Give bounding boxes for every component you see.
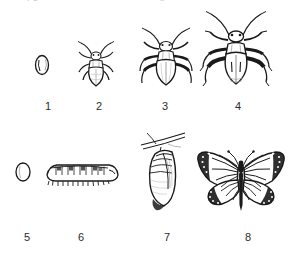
stage-8-figure-monarch-butterfly-adult-icon [198,150,284,211]
stage-1-figure-insect-egg-oval-icon [36,56,49,75]
stage-label-3: 3 [155,100,175,112]
metamorphosis-figure [0,0,307,261]
stage-label-5: 5 [17,231,37,243]
stage-4-figure-insect-adult-bug-icon [200,12,272,87]
stage-7-figure-chrysalis-pupa-icon [141,133,185,210]
stage-label-8: 8 [238,231,258,243]
stage-label-1: 1 [38,100,58,112]
stage-label-6: 6 [71,231,91,243]
stage-label-7: 7 [157,231,177,243]
stage-2-figure-insect-nymph-small-icon [78,42,114,87]
stage-6-figure-caterpillar-larva-icon [47,165,118,186]
stage-label-4: 4 [228,100,248,112]
stage-3-figure-insect-nymph-large-icon [140,28,192,85]
stage-5-figure-butterfly-egg-oval-icon [16,163,30,181]
stage-label-2: 2 [89,100,109,112]
